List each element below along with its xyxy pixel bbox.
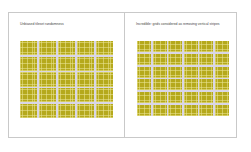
grid-tile <box>184 67 198 78</box>
grid-tile <box>20 72 37 86</box>
grid-tile <box>58 72 75 86</box>
grid-tile <box>77 57 94 71</box>
grid-tile <box>168 67 182 78</box>
grid-tile <box>168 41 182 52</box>
grid-tile <box>39 72 56 86</box>
grid-tile <box>20 57 37 71</box>
grid-tile <box>199 67 213 78</box>
grid-tile <box>58 41 75 55</box>
grid-tile <box>199 41 213 52</box>
grid-tile <box>39 88 56 102</box>
grid-tile <box>199 79 213 90</box>
grid-tile <box>215 54 229 65</box>
grid-tile <box>153 92 167 103</box>
grid-tile <box>77 41 94 55</box>
grid-tile <box>77 72 94 86</box>
grid-tile <box>184 105 198 116</box>
left-panel: Unbiased tileset randomness <box>8 12 125 138</box>
grid-tile <box>58 104 75 118</box>
grid-tile <box>20 41 37 55</box>
grid-tile <box>137 67 151 78</box>
grid-tile <box>215 79 229 90</box>
grid-tile <box>215 105 229 116</box>
grid-tile <box>39 57 56 71</box>
grid-tile <box>137 79 151 90</box>
grid-tile <box>199 92 213 103</box>
grid-tile <box>77 88 94 102</box>
grid-tile <box>137 54 151 65</box>
grid-tile <box>199 105 213 116</box>
grid-tile <box>184 41 198 52</box>
grid-tile <box>58 57 75 71</box>
grid-tile <box>199 54 213 65</box>
grid-tile <box>96 41 113 55</box>
grid-tile <box>137 92 151 103</box>
grid-tile <box>184 79 198 90</box>
grid-tile <box>215 92 229 103</box>
grid-tile <box>153 67 167 78</box>
grid-tile <box>96 104 113 118</box>
grid-tile <box>39 104 56 118</box>
grid-tile <box>168 79 182 90</box>
grid-tile <box>184 92 198 103</box>
grid-tile <box>153 105 167 116</box>
grid-tile <box>137 105 151 116</box>
grid-tile <box>20 104 37 118</box>
right-panel-caption: Incredible: grids considered as removing… <box>136 22 228 27</box>
grid-tile <box>153 41 167 52</box>
left-tile-grid <box>20 41 113 118</box>
grid-tile <box>39 41 56 55</box>
grid-tile <box>168 54 182 65</box>
right-tile-grid <box>137 41 229 116</box>
grid-tile <box>153 79 167 90</box>
grid-tile <box>96 72 113 86</box>
grid-tile <box>184 54 198 65</box>
grid-tile <box>168 92 182 103</box>
grid-tile <box>215 67 229 78</box>
left-panel-caption: Unbiased tileset randomness <box>20 22 112 27</box>
grid-tile <box>137 41 151 52</box>
right-panel: Incredible: grids considered as removing… <box>124 12 237 138</box>
grid-tile <box>96 57 113 71</box>
grid-tile <box>20 88 37 102</box>
grid-tile <box>215 41 229 52</box>
grid-tile <box>153 54 167 65</box>
grid-tile <box>96 88 113 102</box>
grid-tile <box>168 105 182 116</box>
grid-tile <box>58 88 75 102</box>
grid-tile <box>77 104 94 118</box>
